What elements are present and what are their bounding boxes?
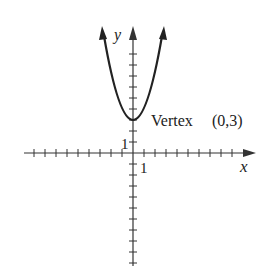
vertex-coordinates: (0,3): [212, 112, 243, 130]
y-unit-label: 1: [121, 136, 129, 152]
y-axis-label: y: [112, 26, 122, 44]
parabola-graph: y x 1 1 Vertex (0,3): [0, 0, 269, 276]
vertex-label: Vertex: [151, 112, 193, 129]
y-axis-arrow-icon: [129, 26, 137, 40]
x-axis-label: x: [239, 157, 248, 176]
y-axis: [129, 26, 137, 266]
x-axis-arrow-icon: [243, 149, 256, 157]
x-axis: [24, 149, 256, 157]
left-curve-arrow-icon: [99, 26, 107, 40]
right-curve-arrow-icon: [159, 26, 167, 40]
x-unit-label: 1: [140, 160, 148, 176]
